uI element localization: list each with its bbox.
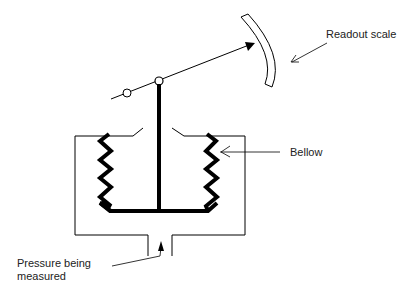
right-bellow	[206, 134, 217, 211]
housing-top-left	[133, 128, 143, 136]
pressure-arrowhead	[158, 241, 164, 251]
pressure-label-line1: Pressure being	[17, 257, 91, 270]
readout-scale-arc	[241, 14, 275, 87]
bellow-label: Bellow	[290, 146, 322, 159]
pivot-circle	[123, 89, 131, 97]
pointer-arrowhead	[245, 42, 255, 51]
pressure-pointer-line	[112, 247, 161, 266]
diagram-canvas	[0, 0, 412, 291]
left-bellow	[100, 134, 111, 211]
pointer-lever	[111, 45, 249, 99]
readout-pointer-line	[292, 43, 327, 62]
readout-scale-label: Readout scale	[326, 28, 396, 41]
housing-top-right	[172, 128, 184, 136]
rod-joint-circle	[155, 77, 163, 85]
housing-left	[75, 136, 148, 256]
bellow-pointer-arrowhead	[221, 146, 230, 157]
pressure-label-line2: measured	[17, 270, 66, 283]
